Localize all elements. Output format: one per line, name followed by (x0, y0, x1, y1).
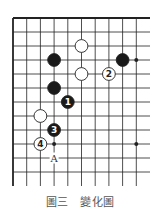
move-number-label: 4 (37, 139, 43, 149)
black-stone-icon (48, 82, 61, 95)
move-number-label: 3 (51, 125, 57, 135)
star-point-icon (134, 58, 138, 62)
star-point-icon (52, 142, 56, 146)
black-stone-icon: 1 (61, 96, 74, 109)
white-stone-icon (34, 110, 47, 123)
go-board-diagram: A 2134 (0, 0, 160, 190)
star-point-icon (134, 142, 138, 146)
white-stone-icon: 2 (103, 68, 116, 81)
move-number-label: 2 (106, 69, 112, 79)
black-stone-icon (48, 54, 61, 67)
white-stone-icon: 4 (34, 138, 47, 151)
white-stone-icon (75, 68, 88, 81)
white-stone-icon (75, 40, 88, 53)
black-stone-icon (116, 54, 129, 67)
move-number-label: 1 (65, 97, 71, 107)
diagram-caption: 圖三 變化圖 (0, 193, 160, 209)
black-stone-icon: 3 (48, 124, 61, 137)
point-marker-label: A (49, 153, 58, 164)
board-markers: A (49, 153, 58, 164)
